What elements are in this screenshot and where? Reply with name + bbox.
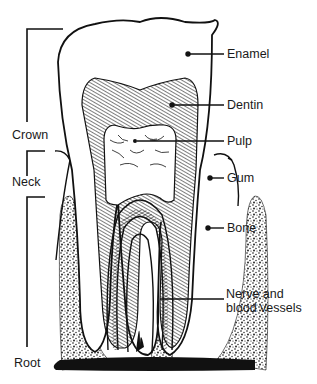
- tooth-diagram: [0, 0, 317, 384]
- label-crown: Crown: [12, 128, 48, 142]
- neck-bracket: [27, 151, 45, 176]
- label-dentin: Dentin: [227, 98, 263, 112]
- label-gum: Gum: [227, 171, 254, 185]
- label-root: Root: [14, 356, 40, 370]
- label-bone: Bone: [227, 221, 256, 235]
- label-pulp: Pulp: [227, 134, 252, 148]
- label-neck: Neck: [12, 175, 40, 189]
- label-nerve-blood-vessels: Nerve and blood vessels: [226, 287, 302, 315]
- crown-bracket: [27, 29, 63, 122]
- root-bracket: [27, 197, 45, 347]
- pulp-region: [104, 125, 176, 205]
- label-enamel: Enamel: [227, 47, 269, 61]
